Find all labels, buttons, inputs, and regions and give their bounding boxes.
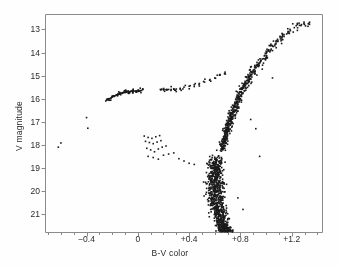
color-magnitude-diagram-figure: B-V color V magnitude −0.40+0.4+0.8+1.2 …	[0, 0, 340, 266]
y-tick-label: 14	[16, 48, 40, 58]
x-tick-label: −0.4	[67, 234, 107, 244]
y-tick-label: 19	[16, 163, 40, 173]
scatter-plot-canvas	[0, 0, 340, 266]
x-tick-label: 0	[118, 234, 158, 244]
y-tick-label: 15	[16, 71, 40, 81]
x-tick-label: +1.2	[272, 234, 312, 244]
y-tick-label: 18	[16, 140, 40, 150]
x-tick-label: +0.4	[169, 234, 209, 244]
y-tick-label: 20	[16, 186, 40, 196]
y-tick-label: 21	[16, 209, 40, 219]
y-tick-label: 13	[16, 24, 40, 34]
x-axis-title: B-V color	[0, 248, 340, 258]
y-tick-label: 16	[16, 94, 40, 104]
y-tick-label: 17	[16, 117, 40, 127]
x-tick-label: +0.8	[220, 234, 260, 244]
